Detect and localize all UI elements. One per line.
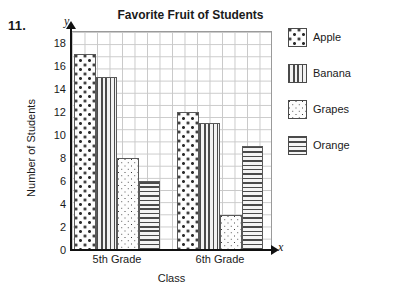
y-axis-arrow-icon [66, 21, 76, 29]
legend-item-label: Apple [313, 31, 341, 43]
y-axis-tick-label: 14 [44, 83, 66, 94]
y-axis-tick-label: 16 [44, 60, 66, 71]
y-axis-tick-label: 0 [44, 245, 66, 256]
legend-item-label: Grapes [313, 103, 349, 115]
chart-title: Favorite Fruit of Students [88, 8, 293, 22]
x-axis-line [70, 249, 272, 251]
y-axis-tick-label: 4 [44, 198, 66, 209]
bar [220, 215, 242, 250]
bars-layer [71, 31, 272, 250]
y-axis-line [70, 27, 72, 251]
legend: AppleBananaGrapesOrange [288, 28, 388, 172]
legend-item-label: Orange [313, 139, 350, 151]
legend-swatch-large-dots-icon [288, 28, 307, 47]
x-axis-arrow-icon [271, 245, 279, 255]
legend-swatch-small-dots-icon [288, 100, 307, 119]
x-axis-category-label: 6th Grade [180, 253, 260, 265]
bar [74, 54, 96, 250]
y-axis-tick-label: 6 [44, 175, 66, 186]
question-number: 11. [8, 18, 26, 33]
legend-item: Orange [288, 136, 388, 154]
bar [242, 146, 264, 250]
legend-item: Banana [288, 64, 388, 82]
legend-item-label: Banana [313, 67, 351, 79]
x-axis-category-label: 5th Grade [77, 253, 157, 265]
legend-swatch-horizontal-lines-icon [288, 136, 307, 155]
bar [177, 112, 199, 250]
y-axis-tick-label: 10 [44, 129, 66, 140]
legend-item: Grapes [288, 100, 388, 118]
x-axis-title: Class [71, 272, 272, 284]
bar [117, 158, 139, 250]
bar [199, 123, 221, 250]
y-axis-tick-labels: 024681012141618 [44, 31, 66, 250]
bar [96, 77, 118, 250]
y-axis-title: Number of Students [25, 78, 37, 218]
y-axis-tick-label: 18 [44, 37, 66, 48]
legend-swatch-vertical-lines-icon [288, 64, 307, 83]
y-axis-tick-label: 2 [44, 221, 66, 232]
y-axis-tick-label: 8 [44, 152, 66, 163]
bar [139, 181, 161, 250]
y-axis-tick-label: 12 [44, 106, 66, 117]
legend-item: Apple [288, 28, 388, 46]
